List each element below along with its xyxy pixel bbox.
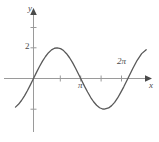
plot-area [0,0,159,142]
x-axis-label: x [149,81,153,90]
sine-curve-figure: y x 2 π 2π [0,0,159,142]
x-tick-label-two-pi: 2π [117,57,126,66]
y-axis-label: y [28,4,32,13]
x-tick-label-pi: π [78,81,83,90]
y-tick-label-2: 2 [25,42,30,51]
